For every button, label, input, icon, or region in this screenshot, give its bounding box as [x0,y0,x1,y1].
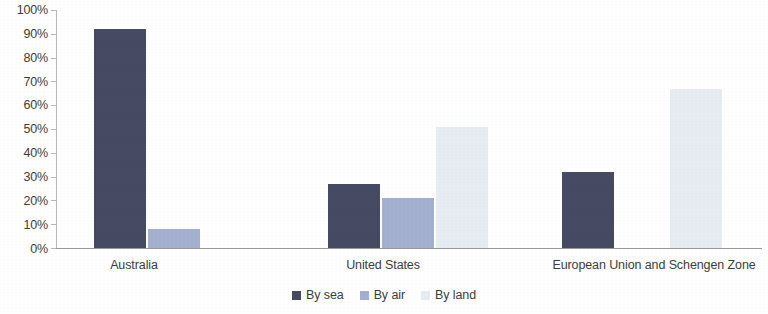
y-axis-tick-label-0: 0% [0,243,48,255]
bar-united-states-by-air [382,198,434,248]
x-axis-line [56,248,762,249]
legend-swatch-by-land-icon [421,291,430,300]
legend-label-by-air: By air [374,289,405,302]
bar-european-union-by-sea [562,172,614,248]
y-axis-tick-label-100: 100% [0,4,48,16]
bar-united-states-by-land [436,127,488,248]
bar-australia-by-sea [94,29,146,248]
y-axis-tick-label-90: 90% [0,28,48,40]
x-axis-label-australia: Australia [74,258,194,273]
bar-australia-by-air [148,229,200,248]
chart-legend: By sea By air By land [0,289,768,302]
y-axis-tick-label-10: 10% [0,219,48,231]
x-axis-label-united-states: United States [308,258,458,273]
y-axis-labels: 100% 90% 80% 70% 60% 50% 40% 30% 20% 10%… [0,0,48,314]
legend-label-by-land: By land [435,289,476,302]
y-axis-tick-label-20: 20% [0,195,48,207]
y-axis-tick-label-50: 50% [0,123,48,135]
legend-swatch-by-air-icon [360,291,369,300]
bar-chart: 100% 90% 80% 70% 60% 50% 40% 30% 20% 10%… [0,0,768,314]
legend-item-by-air: By air [360,289,405,302]
y-axis-tick-label-60: 60% [0,99,48,111]
y-axis-tick-label-30: 30% [0,171,48,183]
legend-label-by-sea: By sea [306,289,344,302]
plot-area [56,10,762,248]
y-axis-tick-label-70: 70% [0,76,48,88]
legend-item-by-land: By land [421,289,476,302]
y-axis-tick-label-80: 80% [0,52,48,64]
y-axis-tick-label-40: 40% [0,147,48,159]
legend-item-by-sea: By sea [292,289,344,302]
bar-united-states-by-sea [328,184,380,248]
legend-swatch-by-sea-icon [292,291,301,300]
bar-european-union-by-land [670,89,722,248]
x-axis-label-european-union: European Union and Schengen Zone [540,258,768,273]
